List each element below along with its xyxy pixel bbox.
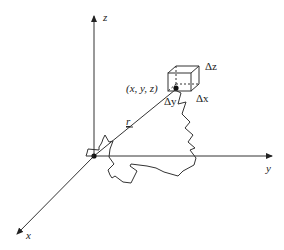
vector-r-label: r — [126, 115, 131, 127]
cube-front-face — [168, 73, 191, 91]
x-axis-label: x — [25, 229, 31, 241]
random-walk-path — [86, 90, 196, 183]
cube-bottom-right-edge — [191, 84, 199, 91]
delta-x-label: Δx — [196, 92, 209, 104]
delta-z-label: Δz — [205, 60, 217, 72]
position-vector-r — [94, 90, 175, 156]
point-xyz — [173, 85, 178, 90]
delta-y-label: Δy — [164, 95, 177, 107]
point-label: (x, y, z) — [126, 82, 158, 95]
z-axis-label: z — [102, 11, 108, 23]
x-axis — [17, 156, 94, 234]
cube-top-face — [168, 66, 199, 73]
volume-element-cube — [168, 66, 199, 91]
y-axis-label: y — [265, 162, 271, 174]
diagram-canvas: z y x (x, y, z) r Δz Δx Δy — [0, 0, 284, 250]
